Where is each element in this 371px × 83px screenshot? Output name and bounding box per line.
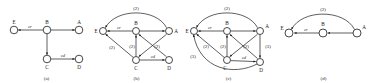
weight-label-a-e: (2)	[320, 7, 326, 12]
node-a[interactable]	[166, 28, 173, 35]
node-label-e: E	[185, 28, 188, 34]
node-label-a: A	[174, 28, 178, 34]
node-e[interactable]	[10, 26, 18, 34]
weight-label-a-d: (3)	[265, 44, 271, 49]
node-d[interactable]	[75, 55, 83, 63]
node-b[interactable]	[133, 28, 140, 35]
node-label-e: E	[94, 28, 97, 34]
weight-label-a-e: (2)	[224, 6, 230, 11]
edge-c-d	[231, 61, 256, 62]
node-label-a: A	[77, 19, 81, 25]
weight-label-a-e: (2)	[133, 6, 139, 11]
node-label-a: A	[362, 24, 366, 30]
node-label-d: D	[167, 65, 171, 71]
node-c[interactable]	[43, 55, 51, 63]
node-a[interactable]	[257, 28, 264, 35]
node-c[interactable]	[224, 57, 231, 64]
node-c[interactable]	[133, 57, 140, 64]
node-label-d: D	[77, 64, 81, 70]
node-e[interactable]	[191, 28, 198, 35]
weight-label-c-e: (2)	[203, 44, 209, 49]
panel-caption-d: (d)	[276, 76, 371, 81]
panel-b: E B A C D cr cd (2) (2) (2) (2) (b)	[90, 0, 183, 83]
edge-label-cd: cd	[61, 53, 66, 58]
node-label-a: A	[265, 23, 269, 29]
node-label-c: C	[134, 65, 138, 71]
node-a[interactable]	[353, 29, 361, 37]
node-d[interactable]	[257, 59, 264, 66]
weight-label-d-b: (2)	[154, 44, 160, 49]
node-label-b: B	[321, 21, 325, 27]
node-a[interactable]	[75, 26, 83, 34]
node-b[interactable]	[319, 29, 327, 37]
node-b[interactable]	[43, 26, 51, 34]
panel-d: E B A cr (2) (d)	[276, 0, 371, 83]
node-label-b: B	[225, 20, 229, 26]
node-label-d: D	[259, 67, 263, 73]
figure-container: E B A C D cr cd (a)	[0, 0, 371, 83]
node-e[interactable]	[285, 29, 293, 37]
edge-label-cr: cr	[304, 27, 308, 32]
node-label-e: E	[12, 19, 15, 25]
edge-label-cd: cd	[242, 55, 247, 60]
edge-label-cd: cd	[151, 54, 156, 59]
node-b[interactable]	[224, 28, 231, 35]
panel-caption-b: (b)	[90, 76, 183, 81]
weight-label-c-e: (2)	[109, 45, 115, 50]
node-label-b: B	[45, 19, 49, 25]
weight-label-d-e: (3)	[190, 54, 196, 59]
panel-caption-c: (c)	[182, 76, 275, 81]
node-d[interactable]	[166, 57, 173, 64]
weight-label-c-b: (2)	[129, 44, 135, 49]
node-e[interactable]	[100, 28, 107, 35]
panel-caption-a: (a)	[0, 76, 93, 81]
panel-c: E B A C D cr cd (2) (2) (2) (3) (2) (3) …	[182, 0, 275, 83]
node-label-b: B	[134, 20, 138, 26]
edge-label-cr: cr	[208, 25, 212, 30]
weight-label-c-b: (2)	[220, 44, 226, 49]
panel-a: E B A C D cr cd (a)	[0, 0, 93, 83]
node-label-c: C	[223, 65, 227, 71]
weight-label-d-b: (2)	[243, 44, 249, 49]
edge-label-cr: cr	[28, 24, 32, 29]
edge-label-cr: cr	[117, 25, 121, 30]
node-label-e: E	[280, 25, 283, 31]
node-label-c: C	[45, 64, 49, 70]
